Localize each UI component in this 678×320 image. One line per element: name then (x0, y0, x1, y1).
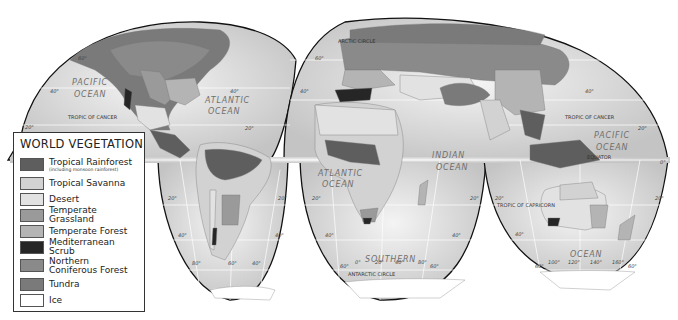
ocean-label-southern-ocean: OCEAN (570, 250, 602, 259)
ocean-label-indian-2: OCEAN (436, 163, 468, 172)
swatch-northern-coniferous-forest (20, 259, 44, 272)
svg-text:160°: 160° (612, 259, 625, 265)
svg-text:60°: 60° (228, 260, 237, 266)
antarctic-circle-label: ANTARCTIC CIRCLE (348, 271, 395, 277)
swatch-ice (20, 294, 44, 307)
ocean-label-southern: SOUTHERN (365, 255, 416, 264)
svg-text:40°: 40° (230, 88, 239, 94)
swatch-tropical-rainforest (20, 158, 44, 171)
legend-item-tropical-savanna: Tropical Savanna (18, 175, 140, 191)
svg-text:40°: 40° (275, 232, 284, 238)
ocean-label-pacific-east-1: PACIFIC (594, 131, 630, 140)
svg-text:20°: 20° (25, 124, 34, 130)
ocean-label-pacific-west-2: OCEAN (74, 90, 106, 99)
svg-text:0°: 0° (355, 259, 361, 265)
svg-text:40°: 40° (50, 88, 59, 94)
svg-text:60°: 60° (78, 55, 87, 61)
svg-text:40°: 40° (395, 259, 404, 265)
svg-text:60°: 60° (628, 263, 637, 269)
swatch-desert (20, 193, 44, 206)
ocean-label-pacific-east-2: OCEAN (596, 143, 628, 152)
svg-text:20°: 20° (470, 195, 479, 201)
ocean-label-indian-1: INDIAN (432, 151, 465, 160)
svg-text:80°: 80° (192, 260, 201, 266)
svg-text:20°: 20° (168, 195, 177, 201)
equator-label: EQUATOR (587, 154, 612, 160)
swatch-tundra (20, 278, 44, 291)
svg-text:120°: 120° (568, 259, 581, 265)
svg-text:40°: 40° (300, 88, 309, 94)
swatch-temperate-grassland (20, 209, 44, 222)
svg-text:20°: 20° (638, 125, 647, 131)
ocean-label-atlantic-north-1: ATLANTIC (204, 96, 250, 105)
svg-text:20°: 20° (655, 195, 664, 201)
arctic-circle-label: ARCTIC CIRCLE (338, 38, 375, 44)
svg-text:40°: 40° (585, 88, 594, 94)
svg-text:60°: 60° (430, 263, 439, 269)
svg-text:40°: 40° (252, 260, 261, 266)
legend: WORLD VEGETATION Tropical Rainforest(inc… (13, 132, 145, 312)
svg-text:20°: 20° (245, 125, 254, 131)
svg-text:80°: 80° (418, 259, 427, 265)
svg-text:40°: 40° (452, 232, 461, 238)
ocean-label-atlantic-south-1: ATLANTIC (317, 169, 363, 178)
svg-text:60°: 60° (340, 263, 349, 269)
ocean-label-atlantic-north-2: OCEAN (208, 107, 240, 116)
svg-text:140°: 140° (590, 259, 603, 265)
legend-title: WORLD VEGETATION (20, 137, 140, 151)
swatch-tropical-savanna (20, 177, 44, 190)
legend-item-temperate-grassland: Temperate Grassland (18, 207, 140, 223)
legend-item-northern-coniferous-forest: Northern Coniferous Forest (18, 255, 140, 276)
svg-text:20°: 20° (312, 195, 321, 201)
legend-item-mediterranean-scrub: Mediterranean Scrub (18, 239, 140, 255)
svg-text:20°: 20° (375, 259, 384, 265)
svg-text:40°: 40° (325, 232, 334, 238)
svg-text:20°: 20° (495, 195, 504, 201)
ocean-label-pacific-west-1: PACIFIC (72, 78, 108, 87)
ocean-label-atlantic-south-2: OCEAN (322, 180, 354, 189)
svg-text:20°: 20° (278, 195, 287, 201)
swatch-mediterranean-scrub (20, 241, 44, 254)
swatch-temperate-forest (20, 225, 44, 238)
svg-text:60°: 60° (315, 55, 324, 61)
svg-text:40°: 40° (515, 231, 524, 237)
svg-text:40°: 40° (178, 232, 187, 238)
svg-text:100°: 100° (548, 259, 561, 265)
svg-text:60°: 60° (535, 263, 544, 269)
legend-item-tropical-rainforest: Tropical Rainforest(including monsoon ra… (18, 154, 140, 175)
tropic-cancer-label-west: TROPIC OF CANCER (67, 114, 118, 120)
tropic-capricorn-label: TROPIC OF CAPRICORN (496, 202, 555, 208)
legend-item-tundra: Tundra (18, 276, 140, 292)
svg-text:0°: 0° (660, 159, 666, 165)
tropic-cancer-label-east: TROPIC OF CANCER (564, 114, 615, 120)
legend-item-ice: Ice (18, 292, 140, 308)
